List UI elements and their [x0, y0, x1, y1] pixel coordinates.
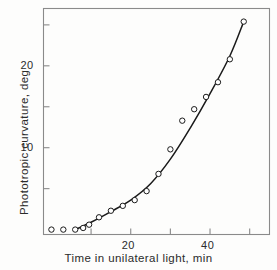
y-tick-label: 20: [21, 59, 34, 71]
x-tick-label: 20: [122, 239, 135, 251]
x-axis-label: Time in unilateral light, min: [0, 252, 277, 264]
phototropic-curvature-chart: [0, 0, 277, 270]
fitted-curve: [75, 22, 244, 230]
y-tick-label: 10: [21, 141, 34, 153]
y-axis-label: Phototropic curvature, deg: [18, 15, 32, 215]
axis-ticks: [44, 25, 250, 235]
x-tick-label: 40: [201, 239, 214, 251]
data-points: [49, 19, 247, 232]
figure-panel: Phototropic curvature, deg Time in unila…: [0, 0, 277, 270]
